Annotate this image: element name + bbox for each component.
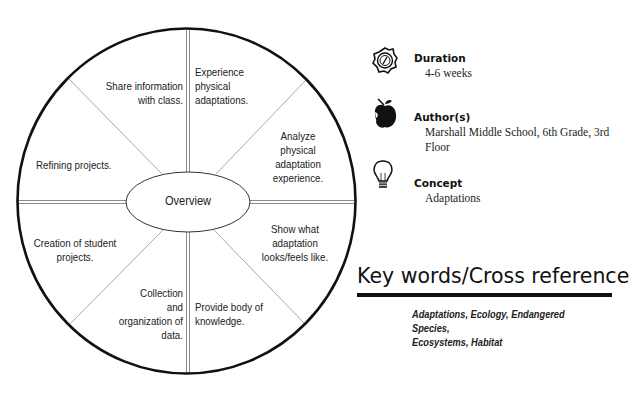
compass-icon	[372, 46, 398, 76]
segment-experience-physical: Experience physical adaptations.	[195, 65, 272, 107]
segment-collection-data: Collection and organization of data.	[95, 286, 183, 342]
apple-icon	[372, 97, 398, 131]
authors-label: Author(s)	[414, 111, 470, 123]
keywords-list: Adaptations, Ecology, Endangered Species…	[412, 307, 601, 349]
keywords-title: Key words/Cross reference	[357, 264, 629, 288]
concept-label: Concept	[414, 177, 462, 189]
keywords-rule	[357, 293, 612, 297]
authors-value: Marshall Middle School, 6th Grade, 3rd F…	[425, 125, 625, 155]
duration-value: 4-6 weeks	[425, 66, 625, 81]
center-label: Overview	[135, 193, 240, 208]
segment-provide-knowledge: Provide body of knowledge.	[195, 300, 280, 328]
lightbulb-icon	[372, 159, 394, 191]
concept-value: Adaptations	[425, 191, 625, 206]
segment-creation-projects: Creation of student projects.	[28, 236, 122, 264]
segment-show-adaptation: Show what adaptation looks/feels like.	[257, 222, 334, 264]
segment-share-information: Share information with class.	[95, 79, 183, 107]
duration-label: Duration	[414, 52, 466, 64]
segment-analyze-physical: Analyze physical adaptation experience.	[264, 129, 332, 185]
segment-refining-projects: Refining projects.	[36, 158, 130, 172]
